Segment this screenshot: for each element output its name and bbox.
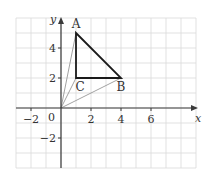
origin-label: 0 <box>48 111 55 124</box>
x-tick-label: −2 <box>23 113 39 126</box>
y-tick-label: 2 <box>49 72 56 85</box>
vertex-label-a: A <box>71 17 81 31</box>
x-tick-label: 4 <box>118 113 125 126</box>
x-tick-label: 6 <box>148 113 155 126</box>
vertex-label-c: C <box>75 80 84 94</box>
coordinate-diagram: −224642−20xyABC <box>0 0 210 179</box>
y-tick-label: 4 <box>49 42 56 55</box>
x-axis-label: x <box>195 112 202 125</box>
axes <box>16 17 198 168</box>
y-tick-label: −2 <box>40 132 56 145</box>
ray-origin-to-a <box>61 33 76 108</box>
triangle-abc <box>76 33 121 78</box>
grid <box>16 18 196 168</box>
x-tick-label: 2 <box>88 113 95 126</box>
x-axis-arrow-icon <box>191 105 198 111</box>
triangle-outline <box>76 33 121 78</box>
vertex-label-b: B <box>117 80 126 94</box>
y-axis-label: y <box>49 13 57 26</box>
